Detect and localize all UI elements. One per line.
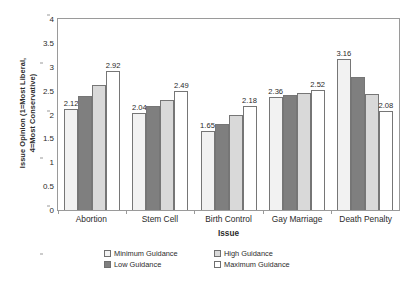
x-axis-tick-label: Death Penalty [331, 214, 400, 224]
y-axis-tick-mark [47, 110, 50, 111]
bar[interactable]: 3.16 [337, 59, 351, 210]
bar[interactable] [283, 95, 297, 210]
legend-item[interactable]: Minimum Guidance [104, 248, 214, 259]
y-axis-title: Issue Opinion (1=Most Liberal, 4=Most Co… [18, 23, 38, 203]
y-axis-tick-mark [47, 206, 50, 207]
bar[interactable] [160, 100, 174, 210]
legend-label: Minimum Guidance [114, 249, 178, 258]
y-axis-tick-label: 0 [50, 206, 54, 215]
y-axis-tick-mark [47, 15, 50, 16]
bar[interactable]: 1.65 [201, 131, 215, 210]
bar-group: 2.122.92 [58, 19, 126, 210]
legend-item[interactable]: Low Guidance [104, 259, 214, 270]
bar[interactable] [297, 93, 311, 210]
y-axis-tick-label: 1.5 [43, 134, 54, 143]
y-axis-tick-label: 3.5 [43, 38, 54, 47]
bar-value-label: 2.36 [268, 87, 283, 96]
chart-figure: Issue Opinion (1=Most Liberal, 4=Most Co… [0, 0, 413, 285]
legend-item[interactable]: Maximum Guidance [214, 259, 334, 270]
bar-group: 2.362.52 [263, 19, 331, 210]
bar[interactable] [351, 77, 365, 210]
bar-value-label: 2.04 [132, 103, 147, 112]
bar-group: 2.042.49 [126, 19, 194, 210]
y-axis-tick-label: 2.5 [43, 86, 54, 95]
bar[interactable]: 2.12 [64, 109, 78, 210]
y-axis-tick-label: 0.5 [43, 182, 54, 191]
y-axis-tick-label: 4 [50, 15, 54, 24]
x-axis-tick-labels: AbortionStem CellBirth ControlGay Marria… [57, 214, 400, 224]
y-axis-tick-mark [40, 158, 43, 159]
legend-label: Maximum Guidance [224, 260, 290, 269]
bar[interactable]: 2.18 [243, 106, 257, 210]
bar-value-label: 2.49 [174, 81, 189, 90]
legend-swatch-icon [214, 261, 221, 268]
bar-groups: 2.122.922.042.491.652.182.362.523.162.08 [58, 19, 399, 210]
bar-value-label: 2.08 [379, 101, 394, 110]
bar-value-label: 2.18 [242, 96, 257, 105]
y-axis-tick-label: 2 [50, 110, 54, 119]
bar[interactable] [215, 124, 229, 210]
bar-group: 3.162.08 [331, 19, 399, 210]
x-axis-tick-label: Gay Marriage [263, 214, 332, 224]
legend-label: Low Guidance [114, 260, 161, 269]
plot-area: 00.511.522.533.54 2.122.922.042.491.652.… [57, 18, 400, 211]
bar[interactable] [229, 115, 243, 210]
bar[interactable] [365, 94, 379, 210]
bar[interactable]: 2.92 [106, 71, 120, 210]
bar[interactable]: 2.52 [311, 90, 325, 210]
bar[interactable]: 2.08 [379, 111, 393, 210]
bar[interactable]: 2.49 [174, 91, 188, 210]
y-axis-title-line-1: Issue Opinion (1=Most Liberal, [18, 23, 28, 203]
bar[interactable] [146, 106, 160, 210]
y-axis-title-line-2: 4=Most Conservative) [28, 23, 38, 203]
legend-swatch-icon [104, 250, 111, 257]
y-axis-tick-mark [40, 62, 43, 63]
bar-value-label: 3.16 [337, 49, 352, 58]
legend-swatch-icon [214, 250, 221, 257]
bar[interactable]: 2.36 [269, 97, 283, 210]
bar-value-label: 2.12 [64, 99, 79, 108]
bar[interactable] [78, 96, 92, 210]
legend-item[interactable]: High Guidance [214, 248, 334, 259]
plot-inner: 00.511.522.533.54 2.122.922.042.491.652.… [58, 19, 399, 210]
bar[interactable] [92, 85, 106, 210]
x-axis-tick-label: Birth Control [194, 214, 263, 224]
bar-value-label: 1.65 [200, 121, 215, 130]
y-axis-tick-label: 1 [50, 158, 54, 167]
bar-value-label: 2.92 [106, 61, 121, 70]
legend-swatch-icon [104, 261, 111, 268]
legend-label: High Guidance [224, 249, 273, 258]
x-axis-title: Issue [57, 229, 400, 238]
bar[interactable]: 2.04 [132, 113, 146, 210]
y-axis-tick-label: 3 [50, 62, 54, 71]
bar-value-label: 2.52 [310, 80, 325, 89]
y-axis-tick-mark [40, 253, 43, 254]
x-axis-tick-label: Abortion [57, 214, 126, 224]
x-axis-tick-label: Stem Cell [126, 214, 195, 224]
bar-group: 1.652.18 [194, 19, 262, 210]
chart-legend: Minimum GuidanceHigh GuidanceLow Guidanc… [104, 248, 334, 270]
